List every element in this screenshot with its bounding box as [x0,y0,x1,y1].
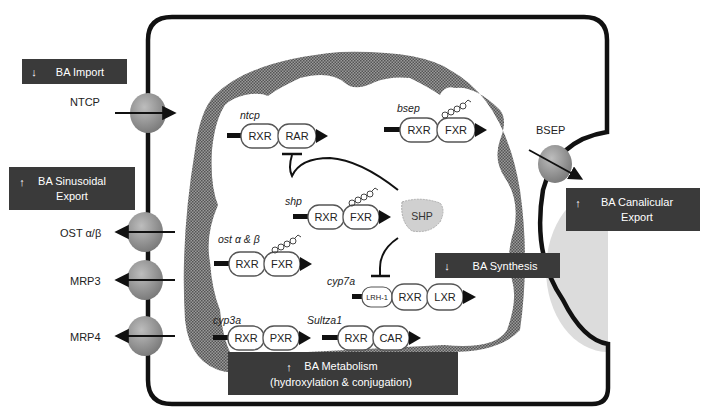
svg-text:Export: Export [56,190,88,202]
gene-sultza1: Sultza1 RXR CAR [307,314,421,350]
mrp3-label: MRP3 [70,275,101,287]
svg-text:RXR: RXR [314,211,337,223]
transporter-ost: OST α/β [60,212,175,252]
ba-metabolism-box: ↑ BA Metabolism (hydroxylation & conjuga… [228,352,458,395]
up-arrow-icon: ↑ [19,176,25,188]
svg-text:RAR: RAR [285,130,308,142]
up-arrow-icon: ↑ [286,361,292,373]
transporter-ntcp: NTCP [70,93,173,133]
svg-text:CAR: CAR [379,332,402,344]
gene-cyp7a: cyp7a LRH-1 RXR LXR [327,275,476,310]
gene-cyp3a: cyp3a RXR PXR [213,314,311,350]
svg-text:LRH-1: LRH-1 [366,293,388,302]
svg-text:cyp3a: cyp3a [213,314,241,326]
bile-acid-diagram: NTCP OST α/β MRP3 MRP4 BSEP ntcp RXR RAR… [0,0,710,416]
svg-text:RXR: RXR [344,332,367,344]
ba-canalicular-export-box: ↑ BA Canalicular Export [566,188,700,231]
svg-text:(hydroxylation & conjugation): (hydroxylation & conjugation) [270,376,412,388]
transporter-bsep: BSEP [529,124,580,183]
transporter-mrp4: MRP4 [70,316,175,356]
svg-text:BA Import: BA Import [56,66,104,78]
gene-ost: ost α & β RXR FXR [214,233,312,276]
svg-text:shp: shp [285,195,302,207]
bile-acid-ligand-icon [272,235,301,253]
gene-shp: shp RXR FXR [285,188,391,229]
up-arrow-icon: ↑ [575,197,581,209]
shp-inhibits-cyp7a [380,238,398,275]
svg-text:ntcp: ntcp [240,109,260,121]
svg-text:Sultza1: Sultza1 [307,314,342,326]
svg-text:RXR: RXR [234,332,257,344]
svg-text:ost α & β: ost α & β [218,233,260,245]
shp-inhibits-ntcp [290,155,398,190]
svg-text:RXR: RXR [407,124,430,136]
svg-text:FXR: FXR [445,124,467,136]
ba-synthesis-box: ↓ BA Synthesis [435,253,560,278]
svg-text:cyp7a: cyp7a [327,275,355,287]
svg-text:LXR: LXR [434,291,455,303]
down-arrow-icon: ↓ [31,66,37,78]
svg-text:SHP: SHP [411,210,433,222]
down-arrow-icon: ↓ [444,260,450,272]
ost-label: OST α/β [60,227,101,239]
gene-ntcp: ntcp RXR RAR [227,109,328,148]
svg-text:BA Synthesis: BA Synthesis [473,260,538,272]
svg-text:BA Canalicular: BA Canalicular [601,196,673,208]
svg-text:FXR: FXR [350,211,372,223]
svg-text:bsep: bsep [397,102,420,114]
bsep-label: BSEP [536,124,565,136]
ntcp-label: NTCP [70,96,100,108]
svg-text:PXR: PXR [270,332,293,344]
svg-text:BA Sinusoidal: BA Sinusoidal [38,175,106,187]
mrp4-label: MRP4 [70,331,101,343]
svg-text:RXR: RXR [235,258,258,270]
ba-sinusoidal-export-box: ↑ BA Sinusoidal Export [9,167,135,210]
svg-text:Export: Export [621,211,653,223]
svg-text:RXR: RXR [248,130,271,142]
ba-import-box: ↓ BA Import [22,59,127,84]
svg-text:FXR: FXR [271,258,293,270]
svg-text:BA Metabolism: BA Metabolism [304,360,377,372]
gene-bsep: bsep RXR FXR [384,100,487,142]
svg-text:RXR: RXR [398,291,421,303]
bile-acid-ligand-icon [349,188,378,206]
transporter-mrp3: MRP3 [70,260,175,300]
shp-protein: SHP [402,199,443,231]
bile-acid-ligand-icon [442,100,471,118]
